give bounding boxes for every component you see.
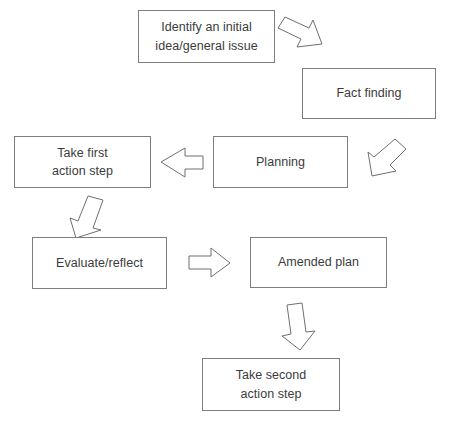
node-take-second-action-step[interactable]: Take second action step xyxy=(202,358,340,411)
node-take-first-action-step-label: Take first action step xyxy=(52,144,113,180)
node-fact-finding[interactable]: Fact finding xyxy=(302,68,436,119)
arrow-take-first-action-step-to-evaluate-reflect-icon xyxy=(70,196,103,238)
arrow-amended-plan-to-take-second-action-step-icon xyxy=(282,303,315,350)
arrow-evaluate-reflect-to-amended-plan-icon xyxy=(189,248,230,277)
node-take-first-action-step[interactable]: Take first action step xyxy=(14,136,151,188)
node-amended-plan-label: Amended plan xyxy=(278,253,359,271)
node-fact-finding-label: Fact finding xyxy=(336,84,401,102)
arrow-fact-finding-to-planning-icon xyxy=(368,139,406,176)
action-research-cycle-diagram: Identify an initial idea/general issue F… xyxy=(0,0,451,424)
arrow-planning-to-take-first-action-step-icon xyxy=(161,148,203,177)
node-evaluate-reflect-label: Evaluate/reflect xyxy=(56,254,143,272)
node-amended-plan[interactable]: Amended plan xyxy=(250,237,387,288)
node-take-second-action-step-label: Take second action step xyxy=(236,366,307,402)
node-identify-an-initial-idea[interactable]: Identify an initial idea/general issue xyxy=(138,10,275,63)
node-identify-an-initial-idea-label: Identify an initial idea/general issue xyxy=(155,18,257,54)
node-evaluate-reflect[interactable]: Evaluate/reflect xyxy=(32,237,167,289)
node-planning-label: Planning xyxy=(256,153,305,171)
arrow-identify-to-fact-finding-icon xyxy=(278,17,322,47)
node-planning[interactable]: Planning xyxy=(213,136,348,188)
